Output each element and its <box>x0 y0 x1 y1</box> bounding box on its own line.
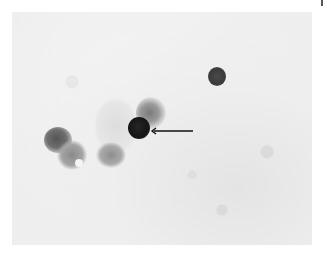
vacuole <box>75 159 83 167</box>
corner-mark <box>321 0 323 6</box>
micrograph <box>12 12 312 245</box>
stained-cell-left-lower <box>57 140 87 170</box>
arrow-left-icon <box>150 127 194 135</box>
arrowed-dark-cell <box>128 117 150 139</box>
stained-cell-center-lower <box>96 142 126 168</box>
dark-cell-upper-right <box>208 67 226 86</box>
